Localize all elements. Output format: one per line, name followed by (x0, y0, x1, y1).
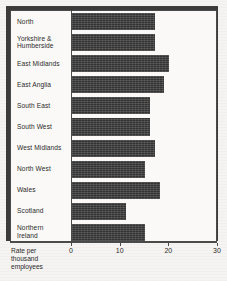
category-label: South West (17, 123, 52, 131)
bar (72, 118, 150, 135)
bar-row (72, 222, 216, 243)
x-axis-tick (217, 243, 218, 246)
x-axis-tick-label: 0 (69, 247, 73, 254)
bar (72, 224, 145, 241)
x-axis-tick (168, 243, 169, 246)
category-row: East Anglia (11, 74, 71, 95)
category-label: East Midlands (17, 60, 60, 68)
category-row: South East (11, 95, 71, 116)
bar (72, 13, 155, 30)
category-row: West Midlands (11, 138, 71, 159)
plot-area (72, 11, 216, 243)
x-axis-tick (120, 243, 121, 246)
x-axis-tick (71, 243, 72, 246)
bar-row (72, 138, 216, 159)
bar-row (72, 53, 216, 74)
category-row: East Midlands (11, 53, 71, 74)
bar-row (72, 180, 216, 201)
category-label: Wales (17, 186, 36, 194)
bar-row (72, 32, 216, 53)
bar-row (72, 201, 216, 222)
category-label: Scotland (17, 208, 43, 216)
bar (72, 140, 155, 157)
category-label-column: NorthYorkshire & HumbersideEast Midlands… (11, 11, 71, 243)
bar (72, 182, 160, 199)
x-axis-tick-label: 30 (213, 247, 221, 254)
category-label: South East (17, 102, 50, 110)
bar-row (72, 74, 216, 95)
x-axis-tick-label: 20 (164, 247, 172, 254)
category-label: West Midlands (17, 144, 61, 152)
category-label: Yorkshire & Humberside (17, 35, 54, 50)
bar-row (72, 116, 216, 137)
category-row: North (11, 11, 71, 32)
category-row: North West (11, 159, 71, 180)
bar (72, 55, 169, 72)
category-row: Northern Ireland (11, 222, 71, 243)
category-row: South West (11, 116, 71, 137)
category-row: Yorkshire & Humberside (11, 32, 71, 53)
bar (72, 97, 150, 114)
bar (72, 161, 145, 178)
category-label: North West (17, 165, 51, 173)
bar (72, 76, 164, 93)
chart-page: NorthYorkshire & HumbersideEast Midlands… (0, 0, 227, 281)
bar-row (72, 159, 216, 180)
category-label: North (17, 18, 34, 26)
category-row: Scotland (11, 201, 71, 222)
category-label: Northern Ireland (17, 225, 43, 240)
chart-frame: NorthYorkshire & HumbersideEast Midlands… (10, 10, 217, 242)
x-axis-tick-label: 10 (116, 247, 124, 254)
x-axis-title: Rate per thousand employees (11, 247, 63, 271)
bar-row (72, 11, 216, 32)
x-axis-line (10, 242, 217, 243)
category-label: East Anglia (17, 81, 51, 89)
bar (72, 203, 126, 220)
category-row: Wales (11, 180, 71, 201)
bar-row (72, 95, 216, 116)
bar (72, 34, 155, 51)
